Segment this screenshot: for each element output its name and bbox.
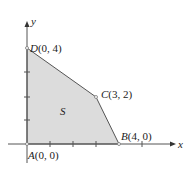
point-a-label: A(0, 0)	[27, 149, 59, 162]
y-axis-arrow-icon	[25, 21, 30, 27]
point-d-label: D(0, 4)	[29, 42, 62, 55]
y-axis-label: y	[30, 15, 36, 27]
point-c-label: C(3, 2)	[101, 88, 133, 101]
feasible-region-diagram: x y S A(0, 0) B(4, 0) C(3, 2) D(0, 4)	[0, 0, 189, 170]
x-axis-arrow-icon	[170, 142, 176, 147]
region-label: S	[60, 105, 66, 117]
x-axis-label: x	[177, 138, 183, 150]
point-b-label: B(4, 0)	[121, 130, 152, 143]
